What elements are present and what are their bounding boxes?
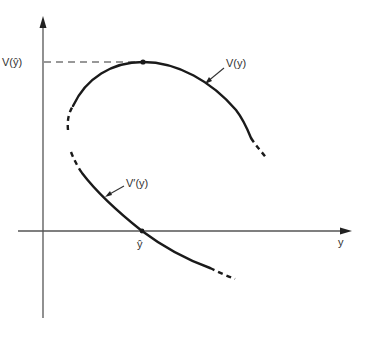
diagram-canvas: y V(ŷ) V(y) ŷ V′(y) [0, 0, 368, 345]
derivative-curve-dashed-left [71, 152, 82, 173]
function-curve-dashed-right [251, 138, 267, 159]
maximum-point [140, 59, 145, 64]
derivative-pointer-arrow-icon [105, 191, 112, 197]
x-axis-label: y [338, 236, 344, 248]
zero-crossing-point [140, 229, 145, 234]
function-label: V(y) [226, 57, 246, 69]
function-curve [73, 62, 251, 138]
derivative-label: V′(y) [126, 177, 148, 189]
max-value-label: V(ŷ) [2, 56, 22, 68]
y-axis-arrow-icon [40, 16, 47, 28]
optimum-label: ŷ [137, 238, 143, 250]
x-axis-arrow-icon [340, 228, 352, 235]
function-curve-dashed-left [68, 106, 73, 130]
derivative-curve-dashed-right [210, 268, 235, 279]
